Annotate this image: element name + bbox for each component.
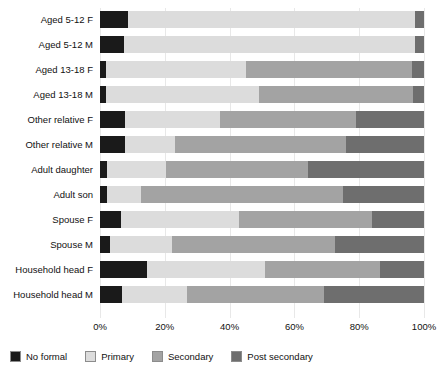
bar-segment-no-formal[interactable]: [100, 11, 128, 28]
bar-row[interactable]: [100, 136, 424, 153]
bar-segment-primary[interactable]: [122, 286, 187, 303]
bar-segment-primary[interactable]: [147, 261, 265, 278]
y-axis-category-labels: Aged 5-12 FAged 5-12 MAged 13-18 FAged 1…: [0, 8, 93, 318]
bar-segment-post-secondary[interactable]: [324, 286, 424, 303]
bar-segment-post-secondary[interactable]: [415, 36, 424, 53]
category-label: Adult son: [0, 186, 93, 203]
plot-area: [100, 8, 424, 318]
bar-segment-no-formal[interactable]: [100, 236, 110, 253]
bar-segment-post-secondary[interactable]: [412, 61, 424, 78]
bar-segment-post-secondary[interactable]: [308, 161, 424, 178]
bar-segment-primary[interactable]: [107, 186, 141, 203]
bar-segment-secondary[interactable]: [172, 236, 335, 253]
category-label: Spouse M: [0, 236, 93, 253]
bar-segment-post-secondary[interactable]: [343, 186, 424, 203]
legend-label: Secondary: [168, 351, 213, 362]
bar-segment-secondary[interactable]: [187, 286, 323, 303]
bar-row[interactable]: [100, 261, 424, 278]
x-tick-label: 100%: [412, 320, 436, 334]
legend-swatch-icon: [10, 351, 21, 362]
bar-segment-secondary[interactable]: [175, 136, 346, 153]
bar-row[interactable]: [100, 86, 424, 103]
bar-row[interactable]: [100, 186, 424, 203]
bar-segment-no-formal[interactable]: [100, 211, 121, 228]
legend-swatch-icon: [152, 351, 163, 362]
bar-segment-secondary[interactable]: [166, 161, 308, 178]
legend-item[interactable]: Primary: [85, 351, 134, 362]
category-label: Aged 13-18 M: [0, 86, 93, 103]
bar-segment-secondary[interactable]: [220, 111, 356, 128]
category-label: Aged 5-12 M: [0, 36, 93, 53]
bar-segment-primary[interactable]: [125, 136, 175, 153]
x-tick-label: 60%: [285, 320, 304, 334]
legend-label: Post secondary: [247, 351, 312, 362]
bar-row[interactable]: [100, 111, 424, 128]
bar-segment-no-formal[interactable]: [100, 36, 124, 53]
gridline-100pct: [424, 8, 425, 318]
category-label: Other relative M: [0, 136, 93, 153]
bar-segment-no-formal[interactable]: [100, 286, 122, 303]
category-label: Household head F: [0, 261, 93, 278]
category-label: Household head M: [0, 286, 93, 303]
bar-segment-no-formal[interactable]: [100, 111, 125, 128]
bar-segment-post-secondary[interactable]: [415, 11, 424, 28]
bar-segment-post-secondary[interactable]: [372, 211, 424, 228]
chart-legend: No formalPrimarySecondaryPost secondary: [10, 351, 323, 362]
bar-segment-primary[interactable]: [125, 111, 220, 128]
bar-segment-no-formal[interactable]: [100, 161, 107, 178]
category-label: Spouse F: [0, 211, 93, 228]
bar-segment-primary[interactable]: [124, 36, 415, 53]
bar-row[interactable]: [100, 236, 424, 253]
legend-item[interactable]: Post secondary: [231, 351, 312, 362]
category-label: Aged 5-12 F: [0, 11, 93, 28]
bar-segment-no-formal[interactable]: [100, 261, 147, 278]
bar-segment-post-secondary[interactable]: [356, 111, 424, 128]
bar-segment-primary[interactable]: [106, 61, 246, 78]
category-label: Other relative F: [0, 111, 93, 128]
bar-segment-post-secondary[interactable]: [413, 86, 424, 103]
legend-label: Primary: [101, 351, 134, 362]
legend-label: No formal: [26, 351, 67, 362]
bar-segment-primary[interactable]: [107, 161, 166, 178]
bar-segment-no-formal[interactable]: [100, 136, 125, 153]
x-tick-label: 40%: [220, 320, 239, 334]
legend-swatch-icon: [85, 351, 96, 362]
stacked-bar-chart: Aged 5-12 FAged 5-12 MAged 13-18 FAged 1…: [0, 0, 446, 382]
bar-segment-secondary[interactable]: [246, 61, 412, 78]
bar-segment-secondary[interactable]: [141, 186, 343, 203]
bar-segment-primary[interactable]: [106, 86, 259, 103]
legend-swatch-icon: [231, 351, 242, 362]
legend-item[interactable]: No formal: [10, 351, 67, 362]
bar-segment-secondary[interactable]: [265, 261, 380, 278]
bar-row[interactable]: [100, 36, 424, 53]
bar-row[interactable]: [100, 211, 424, 228]
bar-segment-primary[interactable]: [110, 236, 172, 253]
x-tick-label: 80%: [350, 320, 369, 334]
bar-row[interactable]: [100, 161, 424, 178]
bar-segment-secondary[interactable]: [239, 211, 372, 228]
bar-row[interactable]: [100, 61, 424, 78]
bar-segment-secondary[interactable]: [259, 86, 413, 103]
bar-row[interactable]: [100, 11, 424, 28]
bar-segment-post-secondary[interactable]: [335, 236, 424, 253]
bar-rows: [100, 8, 424, 318]
legend-item[interactable]: Secondary: [152, 351, 213, 362]
bar-segment-post-secondary[interactable]: [346, 136, 424, 153]
category-label: Aged 13-18 F: [0, 61, 93, 78]
bar-segment-no-formal[interactable]: [100, 186, 107, 203]
category-label: Adult daughter: [0, 161, 93, 178]
x-tick-label: 20%: [155, 320, 174, 334]
bar-segment-primary[interactable]: [121, 211, 239, 228]
x-axis-tick-labels: 0%20%40%60%80%100%: [100, 320, 424, 334]
bar-row[interactable]: [100, 286, 424, 303]
bar-segment-primary[interactable]: [128, 11, 415, 28]
bar-segment-post-secondary[interactable]: [380, 261, 424, 278]
x-tick-label: 0%: [93, 320, 107, 334]
